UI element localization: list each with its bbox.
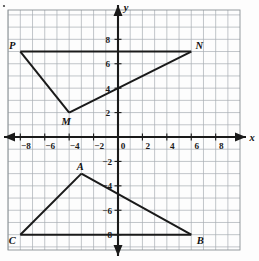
- axis-tick-label: −8: [21, 141, 31, 151]
- vertex-label-c: C: [9, 235, 17, 246]
- axis-tick-label: −4: [70, 141, 80, 151]
- axis-tick-label: −6: [45, 141, 55, 151]
- axis-tick-label: 2: [146, 141, 151, 151]
- corner-dot-mark: [3, 5, 5, 7]
- vertex-label-n: N: [194, 40, 203, 51]
- y-axis-down-arrow: [114, 245, 123, 256]
- vertex-label-a: A: [76, 161, 84, 172]
- axis-tick-label: −2: [94, 141, 104, 151]
- axis-tick-label: −2: [102, 157, 112, 167]
- vertex-label-b: B: [196, 235, 204, 246]
- graph-canvas: y x −8−6−4−2024688642−2−4−6−8 P M N A B …: [0, 0, 259, 261]
- vertex-label-m: M: [60, 116, 71, 127]
- grid-background: [8, 10, 240, 250]
- axis-tick-label: 0: [121, 141, 126, 151]
- axis-tick-label: −6: [102, 206, 112, 216]
- x-axis-label: x: [248, 132, 254, 143]
- axis-tick-label: 6: [105, 59, 110, 69]
- x-axis-right-arrow: [235, 133, 246, 142]
- coordinate-plane-figure: y x −8−6−4−2024688642−2−4−6−8 P M N A B …: [0, 0, 259, 261]
- axis-tick-label: 8: [105, 35, 110, 45]
- axis-tick-label: 6: [194, 141, 199, 151]
- axis-tick-label: 4: [170, 141, 175, 151]
- y-axis-label: y: [122, 2, 129, 13]
- axis-tick-label: 8: [219, 141, 224, 151]
- axis-tick-label: 2: [105, 108, 110, 118]
- vertex-label-p: P: [9, 40, 16, 51]
